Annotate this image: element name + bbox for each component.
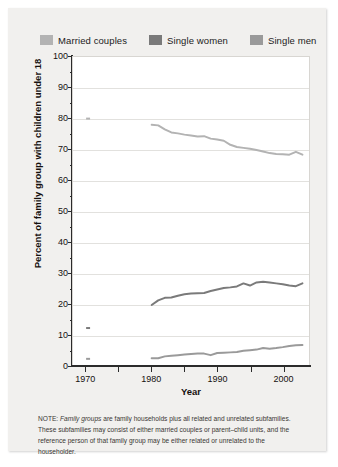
note-prefix: NOTE: xyxy=(38,415,60,422)
note-italic-term: Family groups xyxy=(60,415,101,422)
series-line xyxy=(152,125,303,155)
y-axis-tick-label: 100 xyxy=(44,51,68,61)
y-axis-tick-label: 0 xyxy=(44,361,68,371)
plot-region xyxy=(72,56,310,366)
y-axis-tick-label: 10 xyxy=(44,330,68,340)
y-axis-tick-label: 60 xyxy=(44,175,68,185)
x-axis-title: Year xyxy=(72,386,310,397)
y-axis-tick-label: 40 xyxy=(44,237,68,247)
y-axis-tick-label: 50 xyxy=(44,206,68,216)
figure-card: Married couples Single women Single men … xyxy=(8,8,326,451)
x-axis-ticks: 1970198019902000 xyxy=(72,367,310,373)
x-axis-tick-mark xyxy=(85,367,86,372)
x-axis-tick-mark xyxy=(251,367,252,372)
x-axis-tick-mark xyxy=(184,367,185,372)
x-axis-tick-label: 1990 xyxy=(207,374,227,384)
y-axis-title: Percent of family group with children un… xyxy=(32,49,43,279)
x-axis-tick-label: 1980 xyxy=(141,374,161,384)
x-axis-tick-label: 1970 xyxy=(75,374,95,384)
x-axis-tick-mark xyxy=(118,367,119,372)
y-axis-tick-labels: 0102030405060708090100 xyxy=(40,56,68,366)
figure-note: NOTE: Family groups are family household… xyxy=(38,414,300,458)
chart-area: 0102030405060708090100 Percent of family… xyxy=(8,8,326,451)
y-axis-tick-label: 90 xyxy=(44,82,68,92)
y-axis-tick-label: 80 xyxy=(44,113,68,123)
x-axis-tick-mark xyxy=(284,367,285,372)
y-axis-tick-label: 30 xyxy=(44,268,68,278)
x-axis-tick-mark xyxy=(151,367,152,372)
y-axis-tick-label: 20 xyxy=(44,299,68,309)
series-lines xyxy=(73,57,309,365)
x-axis-tick-label: 2000 xyxy=(274,374,294,384)
y-axis-tick-label: 70 xyxy=(44,144,68,154)
x-axis-tick-mark xyxy=(217,367,218,372)
series-line xyxy=(152,282,303,305)
series-line xyxy=(152,345,303,358)
